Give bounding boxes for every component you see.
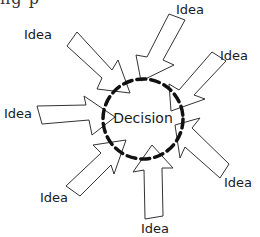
decision-label: Decision: [113, 111, 173, 125]
idea-label-6: Idea: [40, 191, 68, 204]
idea-arrow-2: [136, 14, 185, 81]
convergence-diagram: ng p Decision Idea: [0, 0, 260, 237]
idea-label-5: Idea: [224, 176, 252, 189]
idea-arrow-6: [133, 145, 173, 219]
idea-arrow-1: [67, 32, 130, 93]
cutoff-heading-text: ng p: [0, 0, 40, 8]
idea-label-1: Idea: [24, 28, 52, 41]
idea-label-3: Idea: [220, 49, 248, 62]
idea-label-4: Idea: [4, 107, 32, 120]
idea-label-7: Idea: [141, 222, 169, 235]
idea-label-2: Idea: [176, 3, 204, 16]
